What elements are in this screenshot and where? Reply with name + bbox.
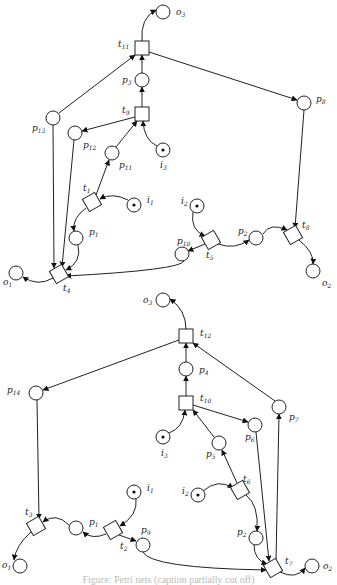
place-o1 xyxy=(9,266,23,280)
place-i2-label: i2 xyxy=(181,196,188,207)
transition-t10 xyxy=(179,396,193,410)
place-circle xyxy=(249,531,263,545)
arc-t1-to-p11 xyxy=(96,160,109,195)
arc-p1b-to-t3 xyxy=(43,518,69,525)
arc-p1-to-t4 xyxy=(66,245,79,270)
place-i1 xyxy=(127,198,141,212)
place-p7-label: p7 xyxy=(289,412,299,423)
place-o1-label: o1 xyxy=(3,277,12,288)
place-p4-label: p4 xyxy=(199,365,209,376)
transition-box xyxy=(179,396,193,410)
place-circle xyxy=(69,521,83,535)
place-p9 xyxy=(136,538,150,552)
arc-t4-to-o1 xyxy=(23,277,53,282)
arc-t12-to-p14 xyxy=(43,340,179,390)
place-o3 xyxy=(156,5,170,19)
arc-p8-to-t8 xyxy=(295,110,304,228)
arc-p11-to-t9 xyxy=(116,121,137,147)
place-p1b-label: p1 xyxy=(89,517,99,528)
transition-t3 xyxy=(26,516,45,535)
place-p10-label: p10 xyxy=(177,236,191,247)
place-i3 xyxy=(156,143,170,157)
place-p11 xyxy=(105,146,119,160)
place-p9-label: p9 xyxy=(141,525,151,536)
arc-t9-to-p12 xyxy=(82,117,135,131)
arc-i3-to-t9 xyxy=(143,121,157,146)
place-circle xyxy=(272,400,286,414)
arc-t6-to-p2b xyxy=(246,495,257,531)
place-circle xyxy=(179,362,193,376)
place-circle xyxy=(212,436,226,450)
arc-t12-to-o3b xyxy=(170,299,186,329)
place-circle xyxy=(46,111,60,125)
transition-t1-label: t1 xyxy=(83,183,90,194)
place-circle xyxy=(105,146,119,160)
transition-box xyxy=(283,225,302,244)
place-p1-label: p1 xyxy=(89,227,99,238)
arc-p2b-to-t7 xyxy=(254,545,267,564)
place-p8 xyxy=(297,96,311,110)
place-p6-label: p6 xyxy=(245,432,255,443)
place-circle xyxy=(9,266,23,280)
arc-t8-to-o2 xyxy=(299,240,313,264)
place-p11-label: p11 xyxy=(119,160,132,171)
arc-t6-to-p5 xyxy=(222,450,237,483)
arc-t11-to-p8 xyxy=(149,52,297,100)
transition-t2-label: t2 xyxy=(120,541,128,552)
place-circle xyxy=(69,231,83,245)
transition-t3-label: t3 xyxy=(25,507,33,518)
transition-t12-label: t12 xyxy=(200,328,211,339)
place-p2-label: p2 xyxy=(238,226,248,237)
place-o1b xyxy=(13,559,27,573)
place-p5-label: p5 xyxy=(206,449,216,460)
token-dot xyxy=(132,203,135,206)
place-circle xyxy=(156,293,170,307)
place-o3-label: o3 xyxy=(176,7,185,18)
place-circle xyxy=(248,418,262,432)
place-i3b xyxy=(156,430,170,444)
place-p5 xyxy=(212,436,226,450)
place-i1-label: i1 xyxy=(147,195,154,206)
arc-p9-to-t7 xyxy=(143,552,266,570)
place-p1b xyxy=(69,521,83,535)
place-i2b xyxy=(191,488,205,502)
place-p2 xyxy=(249,231,263,245)
arc-i2b-to-t6 xyxy=(203,484,233,491)
arc-p13-to-t4 xyxy=(53,125,54,268)
transition-t4 xyxy=(49,264,68,283)
transition-box xyxy=(201,230,220,249)
place-p12 xyxy=(68,126,82,140)
arc-p5-to-t10 xyxy=(193,410,214,437)
place-p12-label: p12 xyxy=(83,140,97,151)
token-dot xyxy=(161,148,164,151)
place-p7 xyxy=(272,400,286,414)
transition-box xyxy=(26,516,45,535)
place-p2b xyxy=(249,531,263,545)
place-p3 xyxy=(135,73,149,87)
transition-t2 xyxy=(103,520,122,539)
transition-t9-label: t9 xyxy=(122,105,130,116)
transition-box xyxy=(103,520,122,539)
arc-t5-to-p10 xyxy=(188,244,205,251)
place-p6 xyxy=(248,418,262,432)
place-o3b xyxy=(156,293,170,307)
place-p8-label: p8 xyxy=(316,94,326,105)
transition-t10-label: t10 xyxy=(200,393,211,404)
transition-t9 xyxy=(135,107,149,121)
place-p14 xyxy=(29,386,43,400)
place-o3b-label: o3 xyxy=(143,295,152,306)
place-o1b-label: o1 xyxy=(2,560,11,571)
arc-t3-to-o1b xyxy=(14,532,31,560)
transition-box xyxy=(49,264,68,283)
place-o2 xyxy=(306,264,320,278)
transition-t5-label: t5 xyxy=(206,250,214,261)
token-dot xyxy=(196,493,199,496)
place-circle xyxy=(249,231,263,245)
arc-i3b-to-t10 xyxy=(169,410,185,433)
transition-box xyxy=(179,329,193,343)
transition-box xyxy=(135,107,149,121)
arc-t11-to-o3 xyxy=(142,10,156,41)
transition-t11-label: t11 xyxy=(118,39,129,50)
place-circle xyxy=(29,386,43,400)
